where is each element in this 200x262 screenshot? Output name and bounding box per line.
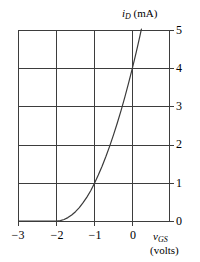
y-axis-title: iD (mA) <box>122 8 157 21</box>
plot-canvas <box>0 0 200 262</box>
y-axis-title-subscript: D <box>125 12 131 21</box>
y-tick-label-5: 5 <box>176 24 182 36</box>
x-tick-label-minus3: −3 <box>12 229 25 241</box>
y-tick-label-2: 2 <box>176 138 182 150</box>
y-tick-label-1: 1 <box>176 177 182 189</box>
grid-lines <box>18 30 170 222</box>
y-axis-title-unit: (mA) <box>134 7 158 19</box>
x-axis-title: vGS <box>153 231 168 244</box>
x-axis-ticks <box>19 222 133 227</box>
x-axis-title-subscript: GS <box>158 235 168 244</box>
x-tick-label-minus2: −2 <box>51 229 64 241</box>
curve-transfer-characteristic <box>19 29 142 221</box>
y-tick-label-0: 0 <box>176 215 182 227</box>
y-tick-label-4: 4 <box>176 62 182 74</box>
x-tick-label-0: 0 <box>130 229 136 241</box>
transfer-characteristic-figure: 5 4 3 2 1 0 −3 −2 −1 0 iD (mA) vGS (volt… <box>0 0 200 262</box>
y-axis-ticks <box>170 31 175 222</box>
x-tick-label-minus1: −1 <box>89 229 102 241</box>
y-tick-label-3: 3 <box>176 100 182 112</box>
x-axis-title-unit: (volts) <box>150 245 179 256</box>
